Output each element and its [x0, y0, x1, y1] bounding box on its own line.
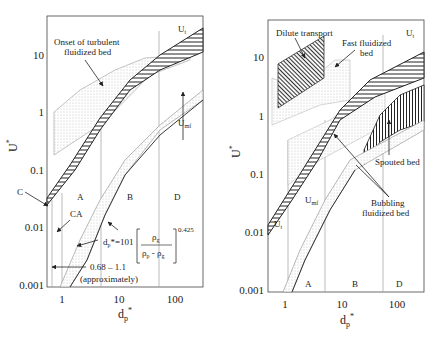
- left-xtick: 10: [114, 293, 126, 305]
- right-umf-label: Umf: [305, 195, 318, 206]
- left-ytick: 0.001: [19, 279, 44, 291]
- left-xtick: 100: [167, 293, 184, 305]
- formula-numerator: ρg: [152, 232, 160, 243]
- right-ytick: 0.001: [239, 284, 264, 296]
- right-y-ticks: 10 1 0.1 0.01 0.001: [239, 51, 264, 296]
- group-a-label: A: [77, 192, 84, 202]
- formula-arrow: [108, 222, 118, 230]
- fast-label-1: Fast fluidized: [342, 38, 392, 48]
- right-y-axis-label: U*: [228, 145, 243, 158]
- right-x-ticks: 1 10 100: [282, 298, 406, 310]
- left-ytick: 0.1: [30, 164, 44, 176]
- ut-label: Ut: [178, 24, 187, 35]
- left-ytick: 1: [39, 106, 45, 118]
- turbulent-region: [54, 55, 190, 155]
- group-b-label: B: [127, 192, 133, 202]
- right-group-a-label: A: [305, 279, 312, 289]
- right-ut-top-label: Ut: [406, 28, 415, 39]
- c-label: C: [17, 187, 23, 197]
- right-group-b-label: B: [352, 279, 358, 289]
- turbulent-label-2: fluidized bed: [64, 47, 112, 57]
- right-ytick: 0.01: [245, 226, 264, 238]
- left-y-axis-label: U*: [5, 139, 20, 152]
- approx-label: (approximately): [80, 274, 138, 284]
- right-ut-bottom-label: Ut: [274, 219, 283, 230]
- formula-bracket-left: [137, 229, 140, 263]
- dp-formula: dp*=101 ρg ρp - ρg 0.425: [103, 226, 194, 263]
- right-x-axis-label: dp*: [340, 312, 354, 329]
- right-ytick: 0.1: [250, 168, 264, 180]
- left-plot: 10 1 0.1 0.01 0.001 1 10 100 U* dp* Onse…: [5, 16, 203, 323]
- fast-label-2: bed: [360, 48, 373, 58]
- right-xtick: 1: [282, 298, 288, 310]
- range-label: 0.68 – 1.1: [90, 262, 126, 272]
- right-umf-line: [292, 170, 355, 292]
- spouted-label: Spouted bed: [375, 157, 420, 167]
- right-ytick: 1: [259, 110, 265, 122]
- bubbling-label-1: Bubbling: [371, 198, 405, 208]
- ca-label: CA: [70, 209, 83, 219]
- left-y-ticks: 10 1 0.1 0.01 0.001: [19, 49, 44, 291]
- formula-exponent: 0.425: [178, 226, 194, 234]
- right-ytick: 10: [253, 51, 265, 63]
- umf-label: Umf: [178, 118, 191, 129]
- formula-bracket-right: [173, 229, 176, 263]
- right-group-d-label: D: [396, 279, 403, 289]
- bubbling-arrow-2: [356, 165, 389, 197]
- group-d-label: D: [174, 192, 181, 202]
- right-xtick: 10: [337, 298, 349, 310]
- turbulent-label-1: Onset of turbulent: [54, 37, 120, 47]
- formula-lhs: dp*=101: [103, 237, 134, 248]
- left-xtick: 1: [59, 293, 65, 305]
- left-ytick: 0.01: [25, 221, 44, 233]
- left-x-ticks: 1 10 100: [59, 293, 184, 305]
- left-x-axis-label: dp*: [118, 306, 132, 323]
- ca-arrow: [57, 220, 70, 232]
- formula-denominator: ρp - ρg: [142, 248, 165, 259]
- right-xtick: 100: [389, 298, 406, 310]
- left-ytick: 10: [33, 49, 45, 61]
- c-arrow: [25, 192, 48, 206]
- dilute-label: Dilute transport: [276, 28, 333, 38]
- geldart-diagrams: 10 1 0.1 0.01 0.001 1 10 100 U* dp* Onse…: [0, 0, 433, 337]
- right-plot: 10 1 0.1 0.01 0.001 1 10 100 U* dp* Dilu…: [228, 20, 424, 329]
- bubbling-label-2: fluidized bed: [362, 208, 410, 218]
